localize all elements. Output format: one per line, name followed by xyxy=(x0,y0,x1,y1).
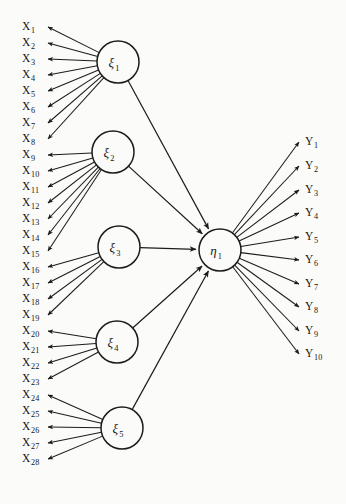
observed-label-X18: X18 xyxy=(22,292,39,307)
observed-label-X21: X21 xyxy=(22,340,39,355)
observed-label-X16: X16 xyxy=(22,260,39,275)
loading-path-xi2-to-X9 xyxy=(48,153,92,155)
loading-path-xi5-to-X28 xyxy=(48,436,103,459)
latent-node-xi3[interactable] xyxy=(98,226,140,268)
loading-path-xi2-to-X11 xyxy=(48,162,95,187)
diagram-canvas: ξ1ξ2ξ3ξ4ξ5η1 X1X2X3X4X5X6X7X8X9X10X11X12… xyxy=(0,0,346,504)
observed-label-X24: X24 xyxy=(22,388,39,403)
loading-path-xi1-to-X8 xyxy=(48,78,104,139)
latent-node-eta1[interactable] xyxy=(199,229,241,271)
loading-path-xi1-to-X1 xyxy=(48,27,99,53)
observed-label-X13: X13 xyxy=(22,212,39,227)
loading-path-xi1-to-X3 xyxy=(48,59,97,61)
observed-label-X3: X3 xyxy=(22,52,35,67)
observed-label-Y2: Y2 xyxy=(305,159,318,174)
observed-label-Y6: Y6 xyxy=(305,253,318,268)
loading-path-xi4-to-X22 xyxy=(48,348,97,363)
loading-path-eta1-to-Y6 xyxy=(241,253,299,260)
loading-path-xi2-to-X13 xyxy=(48,167,98,219)
observed-label-X25: X25 xyxy=(22,404,39,419)
measurement-paths-y-group xyxy=(232,142,299,354)
loading-path-xi4-to-X23 xyxy=(48,352,98,379)
loading-path-eta1-to-Y9 xyxy=(235,265,299,331)
observed-label-X11: X11 xyxy=(22,180,39,195)
observed-label-X20: X20 xyxy=(22,324,39,339)
observed-label-X4: X4 xyxy=(22,68,35,83)
observed-label-Y7: Y7 xyxy=(305,277,318,292)
loading-path-xi1-to-X7 xyxy=(48,76,102,123)
structural-path-xi4-to-eta1 xyxy=(133,266,202,328)
observed-label-X8: X8 xyxy=(22,132,35,147)
loading-path-eta1-to-Y7 xyxy=(239,258,299,284)
loading-path-xi1-to-X2 xyxy=(48,43,98,57)
observed-label-X28: X28 xyxy=(22,452,39,467)
observed-label-X15: X15 xyxy=(22,244,39,259)
loading-path-xi4-to-X20 xyxy=(48,331,96,339)
observed-label-X12: X12 xyxy=(22,196,39,211)
loading-path-xi5-to-X24 xyxy=(48,395,103,419)
structural-path-xi5-to-eta1 xyxy=(132,271,208,410)
observed-label-X27: X27 xyxy=(22,436,39,451)
loading-path-xi5-to-X25 xyxy=(48,411,102,423)
loading-path-xi5-to-X27 xyxy=(48,432,101,443)
measurement-paths-x-group xyxy=(48,27,104,459)
loading-path-eta1-to-Y5 xyxy=(241,237,299,247)
observed-label-X17: X17 xyxy=(22,276,39,291)
latent-node-xi5[interactable] xyxy=(101,407,143,449)
loading-path-xi2-to-X14 xyxy=(48,169,100,235)
observed-label-Y1: Y1 xyxy=(305,135,318,150)
observed-label-X19: X19 xyxy=(22,308,39,323)
observed-label-X23: X23 xyxy=(22,372,39,387)
observed-label-X6: X6 xyxy=(22,100,35,115)
observed-variable-labels-group: X1X2X3X4X5X6X7X8X9X10X11X12X13X14X15X16X… xyxy=(22,20,322,467)
observed-label-X10: X10 xyxy=(22,164,39,179)
latent-node-xi2[interactable] xyxy=(92,131,134,173)
observed-label-Y3: Y3 xyxy=(305,183,318,198)
observed-label-X9: X9 xyxy=(22,148,35,163)
loading-path-eta1-to-Y2 xyxy=(234,166,299,235)
sem-path-diagram: ξ1ξ2ξ3ξ4ξ5η1 X1X2X3X4X5X6X7X8X9X10X11X12… xyxy=(0,0,346,504)
latent-node-xi4[interactable] xyxy=(96,321,138,363)
observed-label-X26: X26 xyxy=(22,420,39,435)
loading-path-xi2-to-X10 xyxy=(48,158,93,171)
observed-label-Y9: Y9 xyxy=(305,324,318,339)
loading-path-xi4-to-X21 xyxy=(48,344,96,347)
observed-label-X2: X2 xyxy=(22,36,35,51)
loading-path-xi3-to-X17 xyxy=(48,257,100,284)
loading-path-xi3-to-X19 xyxy=(48,262,104,315)
observed-label-X14: X14 xyxy=(22,228,39,243)
loading-path-eta1-to-Y4 xyxy=(239,213,299,241)
structural-path-xi1-to-eta1 xyxy=(128,80,209,228)
observed-label-X22: X22 xyxy=(22,356,39,371)
observed-label-X5: X5 xyxy=(22,84,35,99)
latent-node-xi1[interactable] xyxy=(97,41,139,83)
loading-path-eta1-to-Y1 xyxy=(232,142,299,233)
structural-path-xi2-to-eta1 xyxy=(128,166,202,234)
loading-path-xi5-to-X26 xyxy=(48,427,101,428)
loading-path-xi2-to-X12 xyxy=(48,165,96,203)
structural-path-xi3-to-eta1 xyxy=(140,248,196,250)
observed-label-Y5: Y5 xyxy=(305,230,318,245)
latent-nodes-group: ξ1ξ2ξ3ξ4ξ5η1 xyxy=(92,41,241,449)
observed-label-X1: X1 xyxy=(22,20,35,35)
observed-label-Y10: Y10 xyxy=(305,347,322,362)
loading-path-xi3-to-X16 xyxy=(48,253,99,267)
observed-label-Y8: Y8 xyxy=(305,300,318,315)
observed-label-Y4: Y4 xyxy=(305,206,318,221)
observed-label-X7: X7 xyxy=(22,116,35,131)
